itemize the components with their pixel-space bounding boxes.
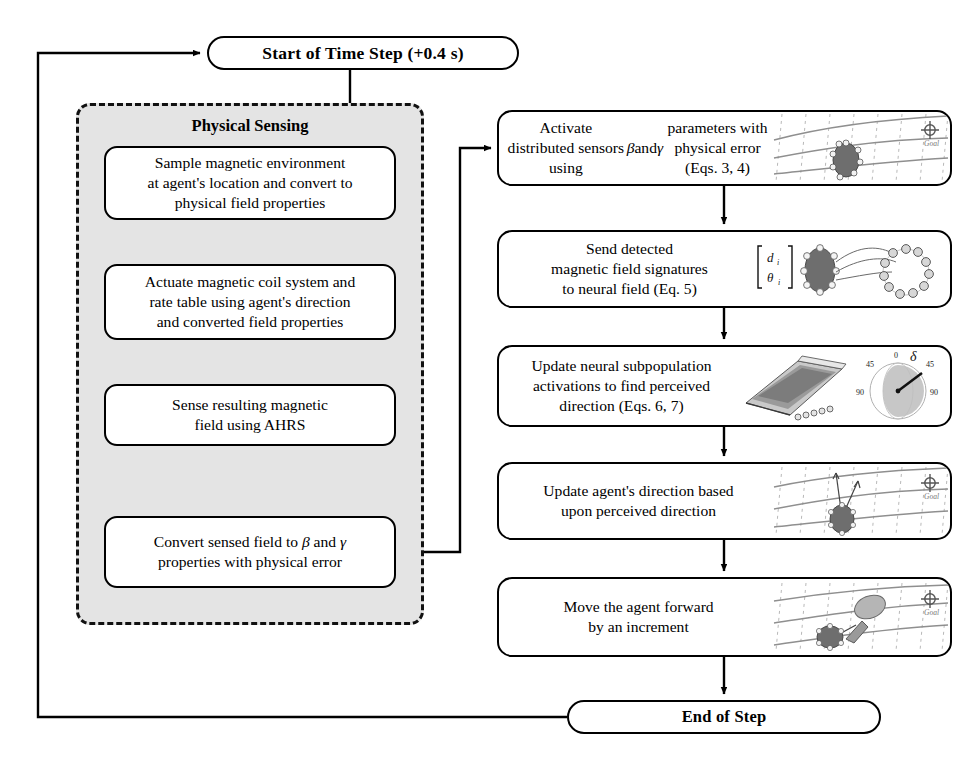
step-move-agent-forward: Move the agent forward by an increment: [497, 577, 952, 657]
step-sample-label: Sample magnetic environment at agent's l…: [106, 153, 394, 214]
figure-agent-sensors-to-neural-ring: d i θ i: [754, 232, 950, 306]
figure-agent-move-forward-goal: Goal: [772, 581, 950, 653]
step-convert-sensed-field: Convert sensed field to β and γ properti…: [104, 516, 396, 588]
polar-tick-45-right: 45: [926, 360, 934, 369]
agent-glyph: [830, 140, 863, 180]
step-update-agent-direction: Update agent's direction based upon perc…: [497, 462, 952, 540]
target-position-glyph: [851, 591, 889, 623]
step-actuate-coil-system: Actuate magnetic coil system and rate ta…: [104, 264, 396, 340]
step-move-forward-label: Move the agent forward by an increment: [499, 579, 772, 655]
figure-agent-direction-vectors-goal: Goal: [772, 465, 950, 537]
figure-field-grid-agent-goal: Goal: [772, 112, 950, 184]
vector-d-subscript: i: [777, 258, 779, 267]
agent-glyph: [801, 245, 840, 296]
vector-theta-subscript: i: [778, 278, 780, 287]
physical-sensing-label: Physical Sensing: [76, 116, 424, 136]
step-update-neural-label: Update neural subpopulation activations …: [499, 347, 738, 425]
vector-d-label: d: [767, 250, 774, 265]
polar-tick-45-left: 45: [866, 360, 874, 369]
neural-surface-plot: [746, 356, 846, 420]
node-end-label: End of Step: [682, 707, 767, 727]
vector-theta-label: θ: [767, 270, 774, 285]
agent-glyph: [828, 502, 855, 535]
goal-label: Goal: [924, 139, 939, 148]
polar-tick-90-left: 90: [856, 388, 864, 397]
step-send-label: Send detected magnetic field signatures …: [499, 232, 754, 306]
figure-neural-surface-and-polar-plot: 0 45 45 90 90 δ: [738, 347, 950, 425]
step-sense-resulting-field: Sense resulting magnetic field using AHR…: [104, 384, 396, 446]
step-sense-label: Sense resulting magnetic field using AHR…: [106, 395, 394, 436]
step-activate-label: Activate distributed sensors using β and…: [499, 112, 772, 184]
delta-label: δ: [910, 349, 917, 364]
step-actuate-label: Actuate magnetic coil system and rate ta…: [106, 272, 394, 333]
polar-tick-0: 0: [894, 351, 898, 360]
step-convert-label: Convert sensed field to β and γ properti…: [106, 532, 394, 573]
goal-label: Goal: [924, 492, 939, 501]
polar-tick-90-right: 90: [930, 388, 938, 397]
node-start-label: Start of Time Step (+0.4 s): [262, 43, 463, 64]
step-activate-distributed-sensors: Activate distributed sensors using β and…: [497, 110, 952, 186]
step-update-neural-subpopulation: Update neural subpopulation activations …: [497, 345, 952, 427]
node-end-of-step: End of Step: [567, 700, 881, 734]
vector-bracket-notation: d i θ i: [758, 246, 792, 288]
node-start-of-time-step: Start of Time Step (+0.4 s): [207, 36, 519, 70]
agent-glyph: [816, 623, 843, 650]
flowchart-diagram: Start of Time Step (+0.4 s) Physical Sen…: [0, 0, 979, 766]
polar-plot: 0 45 45 90 90 δ: [856, 349, 938, 419]
goal-label: Goal: [924, 608, 939, 617]
neural-ring: [880, 245, 934, 299]
step-send-detected-signatures: Send detected magnetic field signatures …: [497, 230, 952, 308]
step-update-direction-label: Update agent's direction based upon perc…: [499, 464, 772, 538]
step-sample-magnetic-environment: Sample magnetic environment at agent's l…: [104, 146, 396, 220]
